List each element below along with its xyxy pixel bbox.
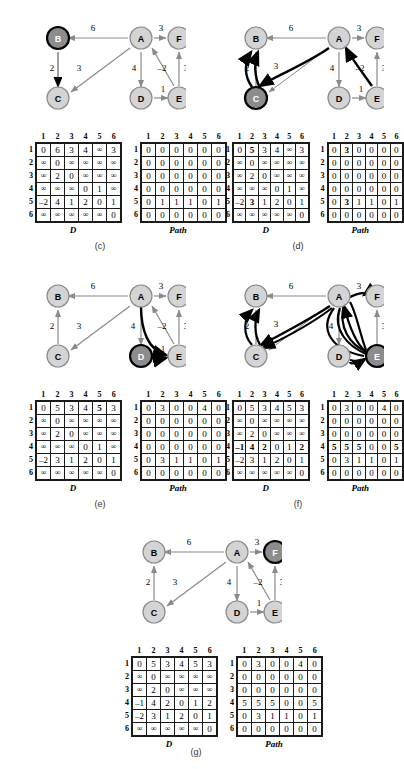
matrix-cell: 0 [365, 157, 377, 170]
matrix-cell: ∞ [79, 157, 93, 170]
matrix-cell: ∞ [51, 183, 65, 196]
matrix-cell: ∞ [296, 428, 309, 441]
node-f: F [168, 285, 186, 307]
path-table-f: 1234561030040200000030000004555005503110… [317, 390, 404, 481]
matrix-cell: 0 [280, 697, 294, 710]
graph-e: 6 3 2 3 4 –2 3 1 B A F C D E [16, 272, 219, 380]
matrix-cell: 0 [365, 415, 377, 428]
table-row: 4∞∞∞01∞ [24, 441, 121, 454]
matrix-cell: ∞ [296, 415, 309, 428]
svg-text:B: B [253, 34, 260, 44]
matrix-cell: 1 [107, 196, 122, 209]
svg-text:D: D [234, 608, 241, 618]
col-header-4: 4 [184, 390, 198, 401]
matrix-cell: 0 [141, 170, 156, 183]
row-header-5: 5 [129, 196, 141, 209]
matrix-cell: 4 [51, 196, 65, 209]
matrix-cell: 0 [198, 428, 212, 441]
col-header-4: 4 [365, 132, 377, 143]
matrix-cell: –1 [132, 697, 147, 710]
row-header-6: 6 [129, 467, 141, 481]
matrix-cell: ∞ [258, 183, 270, 196]
matrix-cell: 0 [198, 157, 212, 170]
matrix-d-g: 12345610534532∞0∞∞∞∞3∞20∞∞∞4–1420125–231… [120, 646, 218, 749]
matrix-cell: 1 [65, 196, 79, 209]
matrices-g: 12345610534532∞0∞∞∞∞3∞20∞∞∞4–1420125–231… [120, 646, 323, 749]
matrix-cell: 0 [246, 415, 258, 428]
matrix-cell: 0 [296, 467, 309, 481]
table-row: 4–142012 [120, 697, 217, 710]
matrix-cell: ∞ [203, 684, 218, 697]
matrix-cell: 3 [296, 401, 309, 415]
matrix-cell: ∞ [36, 415, 51, 428]
col-header-1: 1 [328, 390, 341, 401]
node-c: C [47, 87, 69, 109]
matrix-cell: 0 [266, 684, 280, 697]
matrix-cell: 4 [147, 697, 161, 710]
matrix-cell: 0 [156, 441, 170, 454]
matrix-cell: –2 [132, 710, 147, 723]
matrix-cell: ∞ [233, 157, 246, 170]
table-row: 6∞∞∞∞∞0 [222, 209, 309, 223]
matrix-cell: 3 [340, 143, 352, 157]
matrix-cell: 2 [246, 170, 258, 183]
col-header-5: 5 [189, 646, 203, 657]
matrix-cell: ∞ [271, 209, 283, 223]
matrix-cell: 1 [170, 454, 184, 467]
weight-a-d: 4 [131, 321, 136, 331]
weight-d-e: 1 [257, 598, 262, 608]
col-header-6: 6 [107, 132, 122, 143]
col-header-6: 6 [390, 390, 403, 401]
col-header-1: 1 [36, 132, 51, 143]
matrix-cell: ∞ [79, 170, 93, 183]
matrix-cell: 0 [390, 467, 403, 481]
matrix-cell: ∞ [283, 209, 295, 223]
table-row: 3000000 [317, 428, 404, 441]
node-c: C [245, 345, 267, 367]
weight-a-d: 4 [329, 321, 334, 331]
matrix-cell: 5 [246, 401, 258, 415]
matrix-cell: 0 [198, 454, 212, 467]
path-table-d: 1234561030000200000030000004000000503110… [317, 132, 404, 223]
weight-a-c: 3 [274, 61, 279, 71]
node-b: B [143, 541, 165, 563]
col-header-6: 6 [203, 646, 218, 657]
matrix-cell: 0 [36, 401, 51, 415]
panel-f: 6 3 2 3 4 3 B A F C D E 12345610534532∞0… [214, 272, 396, 483]
table-row: 4555005 [225, 697, 322, 710]
matrix-cell: 0 [170, 143, 184, 157]
matrix-cell: ∞ [107, 415, 122, 428]
matrix-cell: 3 [252, 657, 266, 671]
matrix-cell: 1 [280, 710, 294, 723]
weight-a-d: 4 [330, 63, 335, 73]
matrix-cell: 0 [340, 183, 352, 196]
matrix-cell: 0 [184, 467, 198, 481]
matrix-cell: 0 [246, 157, 258, 170]
weight-a-c: 3 [77, 321, 82, 331]
matrix-cell: 1 [365, 454, 377, 467]
matrix-cell: ∞ [79, 415, 93, 428]
caption-e: (e) [80, 499, 120, 509]
row-header-3: 3 [129, 170, 141, 183]
matrix-cell: ∞ [93, 467, 107, 481]
matrices-c: 12345610634∞32∞0∞∞∞∞3∞20∞∞∞4∞∞∞01∞5–2412… [24, 132, 227, 235]
matrix-cell: 2 [147, 684, 161, 697]
d-label-c: D [24, 225, 122, 235]
matrix-cell: 0 [328, 415, 341, 428]
weight-a-b: 6 [289, 281, 294, 291]
weight-a-c: 3 [274, 319, 279, 329]
col-header-2: 2 [340, 390, 352, 401]
row-header-6: 6 [120, 723, 132, 737]
svg-text:C: C [55, 352, 62, 362]
svg-text:D: D [336, 352, 343, 362]
matrix-cell: ∞ [79, 209, 93, 223]
matrix-cell: 5 [51, 401, 65, 415]
matrix-cell: 3 [107, 401, 122, 415]
matrix-cell: 0 [353, 415, 365, 428]
matrix-cell: 0 [107, 209, 122, 223]
matrix-cell: –1 [233, 441, 246, 454]
matrix-cell: ∞ [175, 684, 189, 697]
matrix-cell: 4 [378, 401, 390, 415]
matrix-cell: 2 [271, 454, 283, 467]
matrix-cell: 0 [51, 157, 65, 170]
